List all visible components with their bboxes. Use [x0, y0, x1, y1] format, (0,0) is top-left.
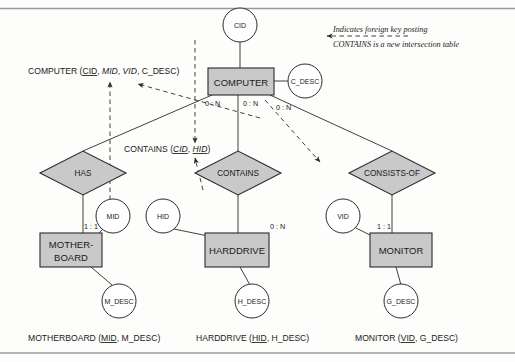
schema-part: MONITOR ( [355, 333, 401, 343]
relationship-group: HASCONTAINSCONSISTS-OF [40, 151, 435, 195]
legend-group: Indicates foreign key posting CONTAINS i… [327, 25, 459, 49]
schema-part: HARDDRIVE ( [196, 333, 252, 343]
entity-label: HARDDRIVE [209, 245, 265, 256]
relationship-label: HAS [75, 169, 92, 178]
schema-part: CID [173, 144, 188, 154]
computer-relation: COMPUTER (CID, MID, VID, C_DESC) [28, 66, 180, 76]
line-monitor-gdesc [396, 267, 401, 285]
legend-line-2: CONTAINS is a new intersection table [333, 40, 459, 49]
legend-line-1: Indicates foreign key posting [332, 25, 428, 34]
er-diagram-canvas: COMPUTERMOTHER-BOARDHARDDRIVEMONITOR HAS… [0, 0, 515, 362]
cardinality-computer-contains: 0 : N [243, 99, 258, 108]
attribute-g_desc[interactable]: G_DESC [384, 284, 418, 318]
entity-label: COMPUTER [214, 77, 269, 88]
er-diagram-svg: COMPUTERMOTHER-BOARDHARDDRIVEMONITOR HAS… [0, 0, 515, 362]
attribute-label: H_DESC [238, 298, 266, 306]
contains-relation: CONTAINS (CID, HID) [124, 144, 210, 154]
entity-computer[interactable]: COMPUTER [208, 68, 274, 95]
entity-motherboard[interactable]: MOTHER-BOARD [40, 233, 102, 267]
attribute-cid[interactable]: CID [223, 8, 257, 42]
attribute-label: MID [107, 213, 120, 220]
schema-part: MID [102, 66, 118, 76]
schema-part: , H_DESC) [267, 333, 310, 343]
attribute-hid[interactable]: HID [146, 199, 180, 233]
schema-part: MID [101, 333, 117, 343]
harddrive-relation: HARDDRIVE (HID, H_DESC) [196, 333, 309, 343]
relationship-label: CONTAINS [217, 169, 259, 178]
relationship-label: CONSISTS-OF [364, 169, 420, 178]
attribute-label: VID [337, 213, 349, 220]
relationship-consists-of[interactable]: CONSISTS-OF [349, 151, 435, 195]
entity-monitor[interactable]: MONITOR [370, 233, 432, 267]
schema-part: , G_DESC) [415, 333, 458, 343]
cardinality-computer-has: 0 : N [205, 99, 220, 108]
entity-label-2: BOARD [54, 252, 88, 263]
schema-part: MOTHERBOARD ( [28, 333, 101, 343]
motherboard-relation: MOTHERBOARD (MID, M_DESC) [28, 333, 160, 343]
attribute-c_desc[interactable]: C_DESC [288, 64, 322, 98]
line-harddrive-hdesc [240, 267, 250, 285]
attribute-vid[interactable]: VID [326, 199, 360, 233]
entity-label: MOTHER- [49, 239, 93, 250]
attribute-mid[interactable]: MID [96, 199, 130, 233]
relationship-contains[interactable]: CONTAINS [195, 151, 281, 195]
schema-part: HID [252, 333, 267, 343]
entity-label: MONITOR [379, 245, 424, 256]
schema-part: , M_DESC) [117, 333, 161, 343]
schema-part: VID [123, 66, 137, 76]
cardinality-harddrive-contains: 0 : N [270, 222, 285, 231]
line-computer-has [83, 95, 212, 151]
cardinality-motherboard-has: 1 : 1 [84, 222, 98, 231]
cardinality-computer-consists-of: 0 : N [276, 103, 291, 112]
schema-part: CID [82, 66, 97, 76]
attribute-m_desc[interactable]: M_DESC [102, 284, 136, 318]
attribute-label: HID [157, 213, 169, 220]
fk-arrow-computer-branch [265, 100, 320, 162]
schema-part: CONTAINS ( [124, 144, 173, 154]
attribute-h_desc[interactable]: H_DESC [235, 284, 269, 318]
attribute-label: M_DESC [104, 298, 133, 306]
schema-part: VID [401, 333, 415, 343]
schema-part: COMPUTER ( [28, 66, 83, 76]
attribute-label: CID [234, 22, 246, 29]
schema-part: ) [207, 144, 210, 154]
attribute-label: C_DESC [291, 78, 319, 86]
attribute-label: G_DESC [387, 298, 416, 306]
schema-part: HID [193, 144, 208, 154]
monitor-relation: MONITOR (VID, G_DESC) [355, 333, 458, 343]
line-motherboard-mdesc [91, 267, 112, 285]
cardinality-monitor-consists-of: 1 : 1 [377, 222, 391, 231]
relationship-has[interactable]: HAS [40, 151, 126, 195]
entity-harddrive[interactable]: HARDDRIVE [205, 233, 269, 267]
schema-part: , C_DESC) [137, 66, 180, 76]
